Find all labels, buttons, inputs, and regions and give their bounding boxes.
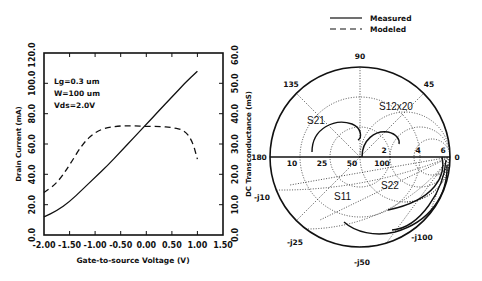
svg-text:-0.50: -0.50 (109, 241, 132, 250)
legend-measured-label: Measured (370, 14, 412, 23)
svg-text:0: 0 (454, 153, 459, 162)
s21-label: S21 (307, 115, 325, 126)
svg-text:60.0: 60.0 (231, 45, 240, 65)
svg-text:-j25: -j25 (287, 238, 303, 247)
svg-text:0.50: 0.50 (162, 241, 182, 250)
svg-text:0.0: 0.0 (231, 227, 240, 242)
svg-text:1.00: 1.00 (188, 241, 208, 250)
svg-text:20.0: 20.0 (231, 164, 240, 184)
svg-text:-1.00: -1.00 (84, 241, 107, 250)
s11-label: S11 (334, 191, 351, 202)
svg-text:20.0: 20.0 (28, 194, 37, 214)
svg-text:45: 45 (424, 80, 434, 89)
svg-text:0.00: 0.00 (136, 241, 156, 250)
transconductance-curve (44, 126, 197, 193)
svg-text:90: 90 (355, 52, 365, 61)
y-tick-labels: 0.0 20.0 40.0 60.0 80.0 100.0 120.0 (28, 42, 37, 242)
legend: Measured Modeled (330, 14, 412, 34)
x-tick-labels: -2.00 -1.50 -1.00 -0.50 0.00 0.50 1.00 1… (32, 241, 233, 250)
svg-text:-j100: -j100 (411, 233, 432, 242)
s12-label: S12x20 (379, 101, 413, 112)
dc-characteristics-chart: -2.00 -1.50 -1.00 -0.50 0.00 0.50 1.00 1… (15, 42, 253, 265)
svg-text:W=100 um: W=100 um (54, 89, 100, 98)
svg-text:-1.50: -1.50 (58, 241, 81, 250)
y-axis-label: Drain Current (mA) (15, 106, 23, 181)
s11-model-trace (392, 160, 446, 230)
y2-tick-labels: 0.0 10.0 20.0 30.0 40.0 50.0 60.0 (231, 45, 240, 242)
polar-grid (296, 67, 423, 217)
svg-text:-j50: -j50 (354, 258, 370, 267)
svg-text:50.0: 50.0 (231, 73, 240, 93)
svg-text:60.0: 60.0 (28, 134, 37, 154)
svg-text:40.0: 40.0 (28, 164, 37, 184)
svg-text:135: 135 (283, 80, 299, 89)
smith-polar-chart: 90 135 45 180 0 -j10 -j25 -j50 -j100 10 … (251, 52, 459, 267)
smith-grid (275, 112, 450, 247)
svg-text:Vds=2.0V: Vds=2.0V (54, 101, 95, 110)
svg-text:120.0: 120.0 (28, 42, 37, 68)
svg-text:100: 100 (374, 159, 390, 168)
svg-text:25: 25 (317, 159, 327, 168)
device-annotations: Lg=0.3 um W=100 um Vds=2.0V (54, 77, 100, 110)
legend-modeled-label: Modeled (370, 25, 406, 34)
svg-text:10.0: 10.0 (231, 194, 240, 214)
s22-label: S22 (381, 180, 399, 191)
svg-text:40.0: 40.0 (231, 103, 240, 123)
s21-trace (312, 122, 360, 152)
y2-axis-label: DC Transconductance (mS) (245, 91, 253, 197)
svg-text:4: 4 (415, 146, 420, 155)
x-axis-label: Gate-to-source Voltage (V) (76, 256, 189, 265)
svg-text:180: 180 (251, 153, 267, 162)
svg-text:Lg=0.3 um: Lg=0.3 um (54, 77, 100, 86)
svg-text:80.0: 80.0 (28, 103, 37, 123)
svg-text:2: 2 (381, 146, 386, 155)
svg-text:6: 6 (440, 146, 445, 155)
figure: -2.00 -1.50 -1.00 -0.50 0.00 0.50 1.00 1… (0, 0, 482, 281)
svg-text:100.0: 100.0 (28, 70, 37, 96)
svg-text:0.0: 0.0 (28, 227, 37, 242)
svg-text:-j10: -j10 (254, 193, 270, 202)
svg-text:30.0: 30.0 (231, 134, 240, 154)
svg-text:10: 10 (287, 159, 297, 168)
svg-text:50: 50 (347, 159, 357, 168)
